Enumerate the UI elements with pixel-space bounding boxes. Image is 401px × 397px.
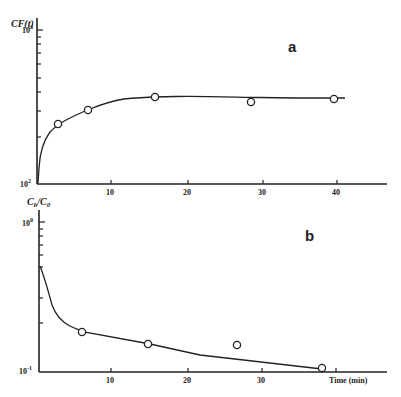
panel-label-a: a	[288, 38, 297, 55]
panel-label-b: b	[305, 227, 314, 244]
x-tick-label: 40	[332, 188, 340, 197]
y-axis-title-b: Cb/C0	[27, 196, 51, 209]
y-ticks-a	[37, 30, 43, 137]
x-tick-label: 20	[183, 376, 191, 385]
y-tick-label-bottom: 102	[20, 178, 31, 189]
x-tick-label: 30	[257, 376, 265, 385]
data-points-a	[54, 93, 337, 127]
fit-curve-b	[40, 266, 322, 369]
x-axis-title-b: Time (min)	[329, 376, 368, 385]
chart-b: 10 20 30 Time (min) 100 10-1 Cb/C0 b	[19, 196, 387, 385]
x-tick-label: 10	[106, 188, 114, 197]
y-axis-title-a: CF(t)	[11, 18, 34, 30]
x-tick-label: 10	[106, 376, 114, 385]
chart-a: 10 20 30 40 103 102 CF(t) a	[11, 18, 387, 197]
y-tick-label-bottom: 10-1	[19, 365, 32, 376]
x-tick-label: 30	[258, 188, 266, 197]
x-tick-label: 20	[183, 188, 191, 197]
y-tick-label-top: 100	[22, 217, 33, 228]
figure: 10 20 30 40 103 102 CF(t) a	[0, 0, 401, 397]
